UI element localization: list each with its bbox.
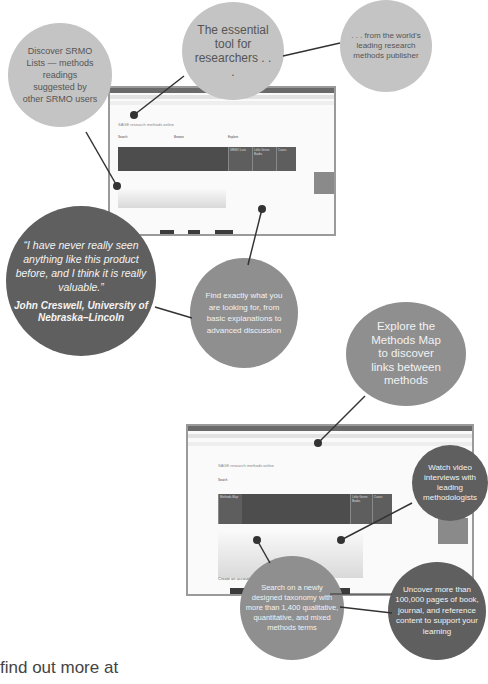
bubble-uncover: Uncover more than 100,000 pages of book,… — [388, 562, 486, 660]
tile-cases: Cases — [372, 494, 392, 524]
bubble-text: Watch video interviews with leading meth… — [419, 463, 481, 503]
tile-little-green-books: Little Green Books — [350, 494, 372, 524]
bubble-find-exactly: Find exactly what you are looking for, f… — [190, 258, 298, 368]
side-ad — [438, 518, 468, 544]
site-title: SAGE research methods online — [218, 463, 274, 468]
connector-line — [283, 43, 340, 56]
bubble-text: Explore the Methods Map to discover link… — [366, 320, 446, 388]
bubble-discover-lists: Discover SRMO Lists — methods readings s… — [8, 23, 112, 127]
bubble-methods-map: Explore the Methods Map to discover link… — [346, 302, 466, 406]
connector-line — [155, 307, 192, 318]
video-strip-1 — [160, 230, 174, 236]
side-ad — [314, 172, 334, 194]
browser-urlbar — [188, 434, 472, 438]
bubble-text: Uncover more than 100,000 pages of book,… — [393, 585, 481, 638]
bubble-essential-tool: The essential tool for researchers . . . — [182, 2, 284, 100]
bubble-text: The essential tool for researchers . . . — [194, 23, 272, 79]
browser-titlebar — [188, 426, 472, 431]
video-strip-3 — [215, 230, 233, 236]
tile-methods-map: Methods Map — [218, 494, 242, 524]
browser-toolbar — [110, 101, 334, 105]
site-title: SAGE research methods online — [118, 122, 174, 127]
testimonial-author: John Creswell, University of Nebraska–Li… — [13, 300, 149, 324]
bubble-watch-video: Watch video interviews with leading meth… — [412, 445, 488, 521]
connector-line — [340, 607, 392, 613]
bubble-leading-publisher: . . . from the world's leading research … — [340, 0, 432, 92]
bubble-text: Find exactly what you are looking for, f… — [199, 290, 289, 336]
testimonial-quote: “I have never really seen anything like … — [11, 238, 151, 294]
tile-srmo-lists: SRMO Lists — [228, 147, 252, 171]
bubble-taxonomy: Search on a newly designed taxonomy with… — [240, 556, 344, 660]
create-account-label: Create an account — [218, 576, 251, 581]
explore-label: Explore — [228, 135, 238, 139]
bubble-text: Discover SRMO Lists — methods readings s… — [22, 45, 98, 105]
bubble-text: . . . from the world's leading research … — [351, 31, 421, 61]
hero-banner — [242, 494, 350, 524]
search-label: Search — [218, 478, 228, 482]
browser-toolbar — [188, 442, 472, 446]
footer-text: find out more at — [0, 658, 118, 678]
browse-label: Browse — [174, 135, 184, 139]
testimonial-bubble: “I have never really seen anything like … — [6, 206, 156, 356]
tile-cases: Cases — [276, 147, 296, 171]
bubble-text: Search on a newly designed taxonomy with… — [245, 583, 339, 633]
content-area — [118, 188, 226, 208]
tile-little-green-books: Little Green Books — [252, 147, 276, 171]
screenshot-top: SAGE research methods online Search Brow… — [108, 86, 336, 236]
video-strip-2 — [188, 230, 200, 236]
hero-banner — [118, 147, 228, 171]
search-label: Search — [118, 135, 128, 139]
